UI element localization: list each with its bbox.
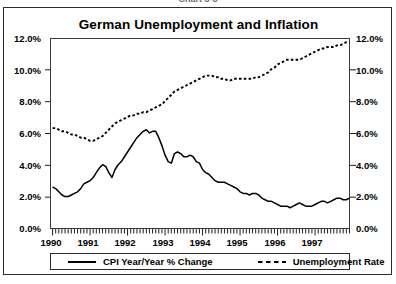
x-axis-label-1996: 1996 [255, 237, 295, 248]
x-axis-ticks [50, 229, 351, 236]
y-axis-right-label-4: 8.0% [356, 96, 396, 107]
y-axis-left-label-4: 8.0% [0, 96, 41, 107]
plot-lines [51, 39, 351, 230]
chart-title: German Unemployment and Inflation [4, 17, 393, 32]
chart-legend: CPI Year/Year % Change Unemployment Rate [50, 253, 350, 270]
x-axis-label-1991: 1991 [68, 237, 108, 248]
chart-frame: German Unemployment and Inflation 0.0% 2… [3, 7, 392, 275]
figure-caption-strip: Chart 3-3 [0, 0, 396, 7]
y-axis-left-label-5: 10.0% [0, 65, 41, 76]
legend-entry-cpi: CPI Year/Year % Change [67, 257, 213, 267]
legend-label-cpi: CPI Year/Year % Change [103, 257, 213, 267]
series-line-cpi [53, 130, 350, 208]
y-axis-right-label-1: 2.0% [356, 191, 396, 202]
y-axis-right-label-2: 4.0% [356, 160, 396, 171]
y-axis-left-label-6: 12.0% [0, 33, 41, 44]
x-axis-label-1992: 1992 [105, 237, 145, 248]
y-axis-right-label-3: 6.0% [356, 128, 396, 139]
x-axis-label-1995: 1995 [217, 237, 257, 248]
y-axis-right-label-6: 12.0% [356, 33, 396, 44]
y-axis-right-label-5: 10.0% [356, 65, 396, 76]
legend-label-unemployment: Unemployment Rate [293, 257, 385, 267]
legend-entry-unemployment: Unemployment Rate [257, 257, 385, 267]
x-axis-label-1990: 1990 [31, 237, 71, 248]
dashed-line-swatch-icon [257, 258, 287, 266]
x-axis-label-1994: 1994 [180, 237, 220, 248]
y-axis-left-label-2: 4.0% [0, 160, 41, 171]
solid-line-swatch-icon [67, 258, 97, 266]
y-axis-right-label-0: 0.0% [356, 223, 396, 234]
figure-caption: Chart 3-3 [0, 0, 396, 4]
plot-area [50, 38, 350, 229]
y-axis-left-label-0: 0.0% [0, 223, 41, 234]
y-axis-left-label-1: 2.0% [0, 191, 41, 202]
x-axis-label-1993: 1993 [143, 237, 183, 248]
y-axis-left-label-3: 6.0% [0, 128, 41, 139]
x-axis-label-1997: 1997 [292, 237, 332, 248]
series-line-unemployment [53, 42, 350, 141]
